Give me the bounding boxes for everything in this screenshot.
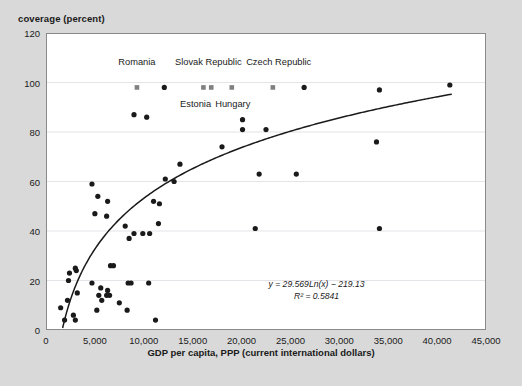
data-point [144,115,149,120]
data-point [177,162,182,167]
trendline-equation-annotation: y = 29.569Ln(x) − 219.13R² = 0.5841 [242,279,392,302]
x-tick-label: 35,000 [361,335,415,346]
data-point [131,231,136,236]
data-point [95,194,100,199]
data-point [123,223,128,228]
data-point [104,214,109,219]
data-point [89,181,94,186]
data-point [377,87,382,92]
data-point-square [201,85,206,90]
data-point [75,290,80,295]
x-axis-title: GDP per capita, PPP (current internation… [0,347,522,358]
y-tick-label: 100 [10,77,40,88]
data-point [377,226,382,231]
data-point [74,268,79,273]
data-point [240,127,245,132]
x-tick-label: 5,000 [68,335,122,346]
data-point-label: Slovak Republic [175,57,242,67]
data-point [153,318,158,323]
data-point [253,226,258,231]
data-point [157,201,162,206]
data-point [374,139,379,144]
y-tick-label: 80 [10,127,40,138]
data-point [105,288,110,293]
y-tick-label: 120 [10,28,40,39]
data-point-square [135,85,140,90]
data-point-label: Czech Republic [246,57,311,67]
x-tick-label: 30,000 [312,335,366,346]
x-tick-label: 0 [19,335,73,346]
data-point [107,293,112,298]
data-point [89,280,94,285]
x-tick-label: 20,000 [215,335,269,346]
data-point [257,171,262,176]
plot-area: RomaniaSlovak RepublicEstoniaHungaryCzec… [46,33,486,330]
data-point [58,305,63,310]
y-tick-label: 40 [10,226,40,237]
data-point [294,171,299,176]
data-point [117,300,122,305]
y-tick-label: 0 [10,325,40,336]
data-point [94,308,99,313]
data-point [156,221,161,226]
data-point-label: Estonia [180,99,211,109]
data-point [131,112,136,117]
data-point [302,85,307,90]
data-point [128,280,133,285]
x-tick-label: 10,000 [117,335,171,346]
data-point [99,298,104,303]
annotation-line: y = 29.569Ln(x) − 219.13 [242,279,392,291]
data-point [163,176,168,181]
x-tick-label: 15,000 [166,335,220,346]
x-tick-label: 25,000 [263,335,317,346]
data-point [73,318,78,323]
data-point [65,298,70,303]
data-point [98,285,103,290]
data-point [111,263,116,268]
data-point-square [229,85,234,90]
data-point-square [271,85,276,90]
data-point [105,199,110,204]
data-point [96,293,101,298]
x-tick-label: 45,000 [459,335,513,346]
data-point [67,270,72,275]
y-axis-title: coverage (percent) [18,13,105,24]
chart-figure: coverage (percent) 020406080100120 05,00… [0,0,522,386]
data-point [447,82,452,87]
data-point [147,231,152,236]
data-point [66,278,71,283]
data-point [171,179,176,184]
data-point-label: Romania [118,57,155,67]
data-point [146,280,151,285]
data-point [263,127,268,132]
data-point [92,211,97,216]
data-point-square [209,85,214,90]
data-point [162,85,167,90]
y-tick-label: 60 [10,176,40,187]
data-point [151,199,156,204]
x-tick-label: 40,000 [410,335,464,346]
annotation-line: R² = 0.5841 [242,291,392,303]
data-point-label: Hungary [215,99,250,109]
y-tick-label: 20 [10,275,40,286]
data-point [62,318,67,323]
data-point [127,236,132,241]
data-point [125,308,130,313]
data-point [219,144,224,149]
data-point [240,117,245,122]
data-point [71,313,76,318]
data-point [140,231,145,236]
